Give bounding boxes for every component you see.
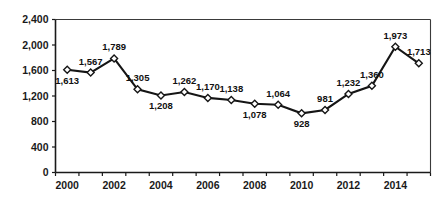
y-axis-tick-label: 2,000	[22, 39, 48, 51]
line-chart: 04008001,2001,6002,0002,400 200020022004…	[0, 0, 446, 197]
data-point-label: 1,232	[337, 77, 361, 88]
data-point-label: 1,973	[383, 30, 407, 41]
data-point-marker	[298, 110, 305, 117]
data-point-label: 1,713	[407, 46, 431, 57]
data-point-marker	[157, 92, 164, 99]
y-axis-tick-label: 400	[31, 141, 49, 153]
data-point-marker	[228, 96, 235, 103]
data-point-label: 1,567	[79, 56, 103, 67]
data-point-label: 1,262	[173, 75, 197, 86]
series-line	[67, 47, 419, 114]
y-axis-tick-labels: 04008001,2001,6002,0002,400	[22, 13, 48, 178]
data-point-label: 1,064	[266, 88, 290, 99]
y-axis-tick-label: 1,600	[22, 64, 48, 76]
x-axis-tick-label: 2006	[196, 179, 220, 191]
data-point-marker	[64, 66, 71, 73]
y-axis-tick-label: 800	[31, 115, 49, 127]
data-series	[64, 43, 423, 117]
data-point-marker	[251, 100, 258, 107]
data-point-label: 1,170	[196, 81, 220, 92]
x-axis-tick-label: 2014	[384, 179, 408, 191]
data-point-label: 1,078	[243, 109, 267, 120]
chart-canvas: 04008001,2001,6002,0002,400 200020022004…	[0, 0, 446, 197]
data-point-label: 1,305	[126, 72, 150, 83]
x-axis-tick-label: 2008	[243, 179, 267, 191]
x-axis-tick-label: 2000	[56, 179, 80, 191]
x-axis-tick-labels: 20002002200420062008201020122014	[56, 179, 408, 191]
data-point-label: 1,138	[219, 83, 243, 94]
y-axis-tick-label: 0	[43, 166, 49, 178]
data-point-label: 1,208	[149, 100, 173, 111]
x-axis-tick-label: 2010	[290, 179, 314, 191]
data-point-label: 1,789	[102, 41, 126, 52]
data-point-label: 1,613	[55, 75, 79, 86]
data-point-label: 928	[294, 118, 310, 129]
x-axis-tick-label: 2002	[102, 179, 126, 191]
x-axis-tick-label: 2004	[149, 179, 173, 191]
data-point-label: 1,360	[360, 69, 384, 80]
y-axis-tick-label: 2,400	[22, 13, 48, 25]
data-point-marker	[275, 101, 282, 108]
series-markers	[64, 43, 423, 117]
x-axis-tick-label: 2012	[337, 179, 361, 191]
data-point-marker	[204, 94, 211, 101]
y-axis-tick-label: 1,200	[22, 90, 48, 102]
data-point-labels: 1,6131,5671,7891,3051,2081,2621,1701,138…	[55, 30, 430, 130]
data-point-marker	[181, 89, 188, 96]
data-point-label: 981	[317, 93, 334, 104]
